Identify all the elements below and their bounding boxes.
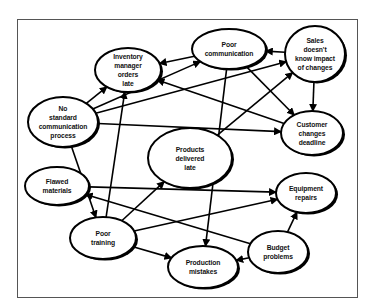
node-label-line: deadline — [297, 138, 328, 147]
node-label-products_late: Productsdeliveredlate — [152, 128, 228, 188]
arrow-sales-to-poor_comm — [266, 51, 285, 52]
node-label-line: Customer — [297, 120, 328, 129]
node-label-line: training — [91, 238, 115, 247]
node-label-production: Productionmistakes — [172, 246, 235, 288]
node-label-line: Poor — [205, 40, 254, 49]
arrow-budget-to-equipment — [287, 212, 296, 232]
node-label-line: Poor — [91, 229, 115, 238]
node-label-poor_comm: Poorcommunication — [196, 29, 263, 69]
node-label-line: problems — [263, 252, 293, 261]
node-label-customer: Customerchangesdeadline — [284, 111, 340, 155]
arrow-poor_comm-to-inventory — [160, 56, 195, 63]
arrow-budget-to-production — [236, 258, 249, 261]
node-label-line: late — [176, 163, 205, 172]
arrow-poor_training-to-inventory — [106, 92, 125, 217]
node-label-line: of changes — [295, 63, 335, 72]
node-label-line: Budget — [263, 243, 293, 252]
node-label-line: Products — [176, 145, 205, 154]
node-label-line: orders — [113, 70, 143, 79]
node-label-line: Flawed — [43, 177, 72, 186]
cause-effect-diagram: InventorymanagerorderslatePoorcommunicat… — [0, 0, 373, 307]
node-label-sales: Salesdoesn'tknow impactof changes — [288, 26, 342, 82]
node-label-budget: Budgetproblems — [251, 231, 305, 273]
node-label-line: doesn't — [295, 45, 335, 54]
node-label-line: No — [39, 104, 88, 113]
arrow-poor_training-to-production — [133, 247, 171, 258]
node-label-flawed: Flawedmaterials — [28, 167, 86, 205]
node-label-line: materials — [43, 186, 72, 195]
node-label-line: late — [113, 79, 143, 88]
node-label-line: changes — [297, 129, 328, 138]
node-label-line: Sales — [295, 36, 335, 45]
node-label-line: Production — [186, 258, 221, 267]
node-label-line: know impact — [295, 54, 335, 63]
node-label-inventory: Inventorymanagerorderslate — [98, 48, 157, 92]
node-label-poor_training: Poortraining — [73, 217, 132, 259]
node-label-equipment: Equipmentrepairs — [279, 173, 333, 213]
node-label-line: mistakes — [186, 267, 221, 276]
node-label-line: manager — [113, 61, 143, 70]
node-label-line: standard — [39, 113, 88, 122]
node-label-no_std: Nostandardcommunicationprocess — [32, 97, 95, 147]
node-label-line: repairs — [289, 193, 323, 202]
node-label-line: communication — [39, 122, 88, 131]
node-label-line: communication — [205, 49, 254, 58]
node-label-line: process — [39, 131, 88, 140]
arrow-sales-to-customer — [313, 82, 314, 111]
node-label-line: delivered — [176, 154, 205, 163]
node-label-line: Inventory — [113, 52, 143, 61]
node-label-line: Equipment — [289, 184, 323, 193]
